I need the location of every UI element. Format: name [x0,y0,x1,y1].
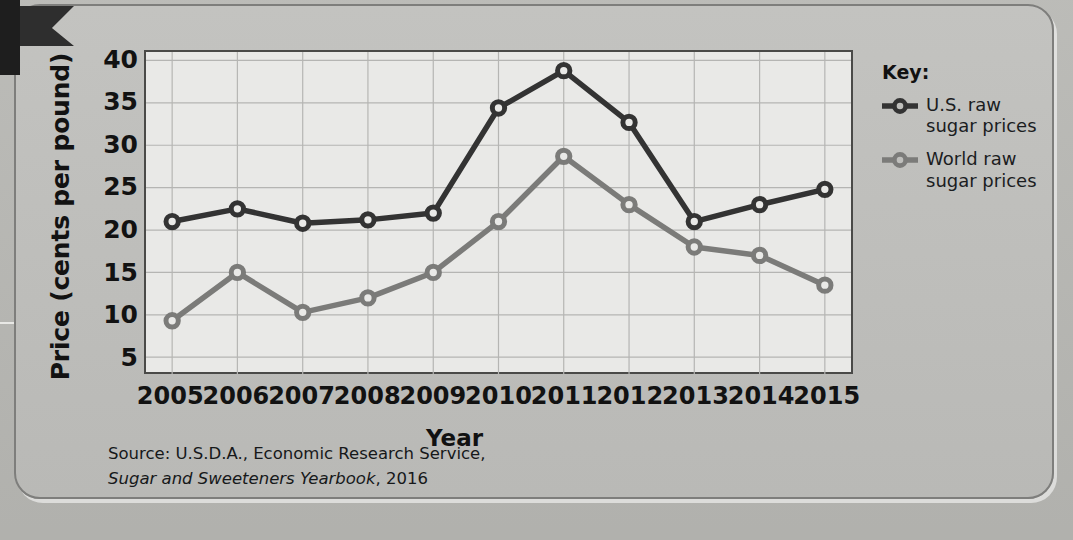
corner-chevron-tab-icon [16,6,74,46]
corner-tab-edge-icon [0,0,20,75]
legend-label-line-1: World raw [926,148,1037,169]
y-tick-label: 15 [92,257,138,286]
x-tick-label: 2009 [399,382,466,410]
x-tick-label: 2007 [268,382,335,410]
legend-label-line-1: U.S. raw [926,94,1037,115]
y-tick-label: 25 [92,172,138,201]
page-background: a larger foundation Price (cents per pou… [0,0,1073,540]
plot-area [144,50,853,374]
legend-marker-icon [882,150,918,170]
y-tick-label: 40 [92,44,138,73]
x-tick-label: 2012 [596,382,663,410]
x-tick-label: 2013 [662,382,729,410]
source-note-line-1: Source: U.S.D.A., Economic Research Serv… [108,442,485,467]
y-tick-label: 35 [92,87,138,116]
series-lines [146,52,851,374]
y-tick-label: 5 [92,342,138,371]
y-tick-label: 10 [92,300,138,329]
x-tick-label: 2015 [793,382,860,410]
legend-entry: World rawsugar prices [882,148,1052,190]
x-tick-label: 2006 [203,382,270,410]
source-publication-title: Sugar and Sweeteners Yearbook [108,469,376,488]
source-note: Source: U.S.D.A., Economic Research Serv… [108,442,485,492]
legend-label-line-2: sugar prices [926,170,1037,191]
legend-label-line-2: sugar prices [926,115,1037,136]
legend-marker-icon [882,96,918,116]
legend-label: U.S. rawsugar prices [926,94,1037,136]
x-tick-label: 2011 [531,382,598,410]
y-axis-title: Price (cents per pound) [46,52,75,382]
source-note-year: , 2016 [376,469,428,488]
x-tick-label: 2010 [465,382,532,410]
chart-card: Price (cents per pound) 403530252015105 … [14,4,1054,499]
legend-entries: U.S. rawsugar pricesWorld rawsugar price… [882,94,1052,191]
x-axis-tick-labels: 2005200620072008200920102011201220132014… [144,382,853,416]
legend-entry: U.S. rawsugar prices [882,94,1052,136]
source-note-line-2: Sugar and Sweeteners Yearbook, 2016 [108,467,485,492]
y-axis-tick-labels: 403530252015105 [86,50,138,374]
y-tick-label: 20 [92,215,138,244]
y-tick-label: 30 [92,129,138,158]
legend: Key: U.S. rawsugar pricesWorld rawsugar … [882,61,1052,203]
legend-title: Key: [882,61,1052,83]
x-tick-label: 2005 [137,382,204,410]
legend-label: World rawsugar prices [926,148,1037,190]
x-tick-label: 2014 [728,382,795,410]
x-tick-label: 2008 [334,382,401,410]
